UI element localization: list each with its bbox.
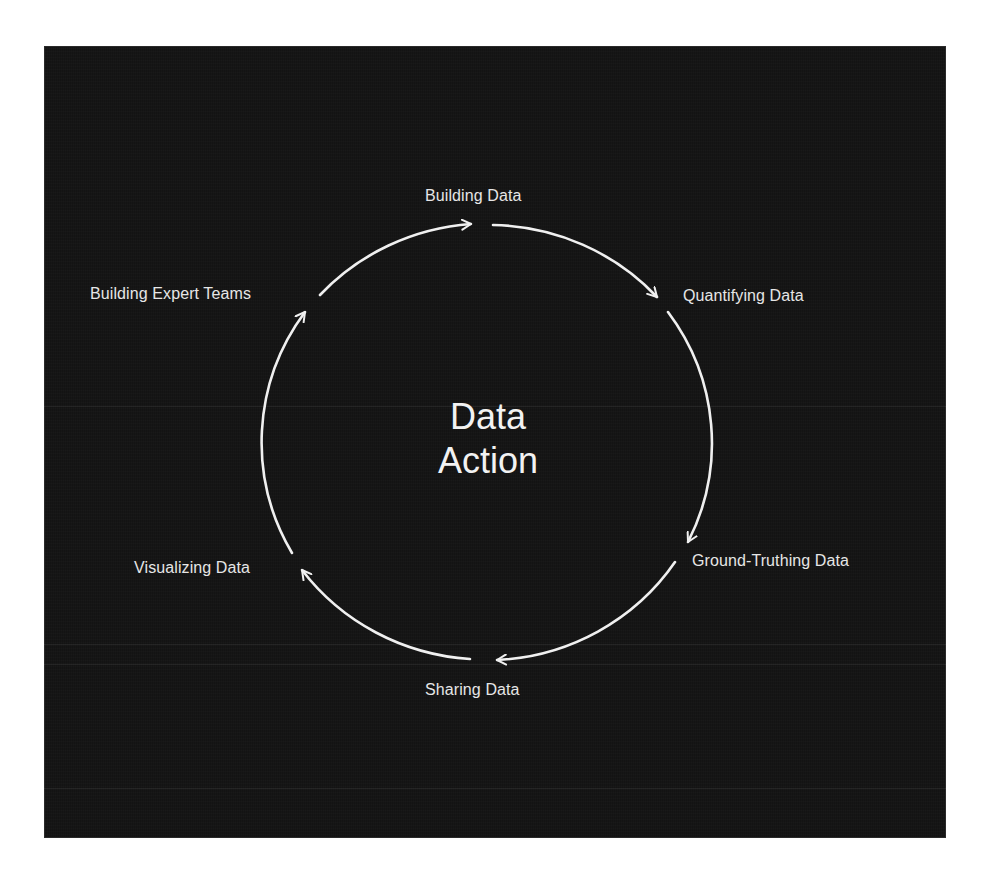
node-ground-truthing-data: Ground-Truthing Data [692, 551, 849, 571]
node-visualizing-data: Visualizing Data [134, 558, 250, 578]
arrow-expert-teams-to-building-data [320, 224, 471, 295]
center-title: Data Action [388, 395, 588, 483]
node-sharing-data: Sharing Data [425, 680, 520, 700]
arrow-building-to-quantifying [493, 225, 657, 297]
arrow-quantifying-to-ground-truthing [668, 312, 712, 542]
node-building-expert-teams: Building Expert Teams [90, 284, 251, 304]
center-title-line2: Action [388, 439, 588, 483]
arrow-sharing-to-visualizing [302, 570, 470, 659]
center-title-line1: Data [388, 395, 588, 439]
node-building-data: Building Data [425, 186, 521, 206]
arrow-visualizing-to-expert-teams [262, 312, 305, 553]
node-quantifying-data: Quantifying Data [683, 286, 804, 306]
arrow-ground-truthing-to-sharing [497, 562, 675, 660]
